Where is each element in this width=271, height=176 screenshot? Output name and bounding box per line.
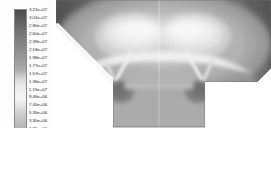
colorbar-tick-label: 3.01e+07 — [29, 15, 47, 21]
colorbar-tick-label: -2.87e+06 — [29, 142, 48, 148]
colorbar-tick-label: 5.35e+06 — [29, 110, 47, 116]
colorbar-tick-label: 1.25e+06 — [29, 126, 47, 132]
colorbar-tick-label: 1.57e+07 — [29, 71, 47, 77]
colorbar-tick-label: 1.98e+07 — [29, 55, 47, 61]
contour-plot-canvas — [55, 0, 271, 128]
lower-left-cutout-mask — [55, 82, 113, 128]
colorbar-tick-label: 2.39e+07 — [29, 39, 47, 45]
colorbar-tick-label: -8.11e+05 — [29, 134, 48, 140]
colorbar-tick-label: 3.30e+06 — [29, 118, 47, 124]
colorbar-tick-label: 2.60e+07 — [29, 31, 47, 37]
colorbar-tick-label: 1.36e+07 — [29, 79, 47, 85]
lower-block-field — [103, 81, 215, 128]
colorbar-tick-label: 1.15e+07 — [29, 87, 47, 93]
colorbar-gradient — [15, 10, 26, 167]
figure-root: 3.21e+073.01e+072.80e+072.60e+072.39e+07… — [0, 0, 271, 176]
colorbar-tick-label: -6.98e+06 — [29, 158, 48, 164]
colorbar-tick-label: 9.46e+06 — [29, 94, 47, 100]
colorbar-tick-label: -4.92e+06 — [29, 150, 48, 156]
colorbar-tick-label: 3.21e+07 — [29, 7, 47, 13]
colorbar-tick-label: 1.77e+07 — [29, 63, 47, 69]
colorbar-swatch — [14, 9, 27, 168]
lower-right-cutout-mask — [205, 82, 271, 128]
colorbar-tick-label: 7.40e+06 — [29, 102, 47, 108]
colorbar-tick-label: -9.04e+06 — [29, 166, 48, 172]
colorbar-tick-label: 2.18e+07 — [29, 47, 47, 53]
colorbar-tick-label: 2.80e+07 — [29, 23, 47, 29]
